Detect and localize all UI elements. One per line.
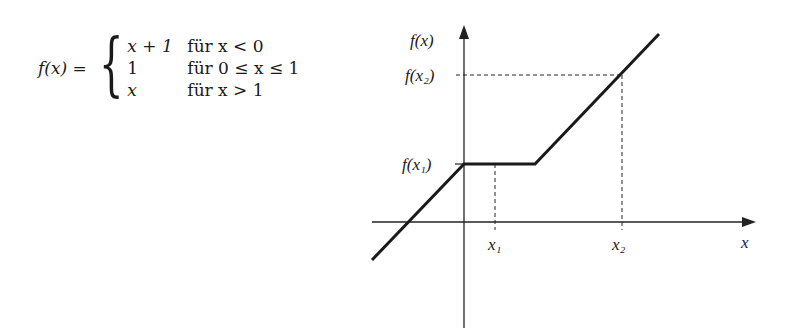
y-axis-arrow-icon [459,25,469,39]
function-graph: f(x) f(x₂) f(x₁) x₁ x₂ x [0,0,791,332]
fx1-label: f(x₁) [402,155,432,174]
y-axis-label: f(x) [410,31,434,50]
fx2-label: f(x₂) [405,66,435,85]
x1-label: x₁ [487,235,501,254]
x2-label: x₂ [611,235,626,254]
x-axis-label: x [740,233,749,252]
x-axis-arrow-icon [742,217,756,227]
